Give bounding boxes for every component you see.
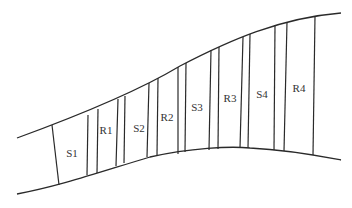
flow-path-diagram: S1R1S2R2S3R3S4R4 — [0, 0, 352, 208]
stage-label-r4: R4 — [293, 82, 306, 94]
stage-label-r2: R2 — [161, 111, 174, 123]
blade-edge-line — [284, 22, 287, 151]
stage-label-s1: S1 — [66, 147, 78, 159]
blade-edge-line — [97, 109, 98, 173]
blade-edge-line — [124, 96, 125, 163]
blade-edge-line — [218, 47, 219, 149]
blade-edge-line — [185, 63, 186, 152]
blade-edge-line — [313, 16, 315, 155]
blade-edge-line — [248, 34, 250, 148]
blade-edge-line — [52, 125, 59, 185]
blade-edge-line — [240, 37, 243, 148]
blade-edge-line — [147, 83, 149, 157]
outer-casing-wall — [17, 13, 341, 138]
stage-label-s4: S4 — [256, 88, 268, 100]
blade-edge-line — [274, 25, 275, 150]
blade-edge-line — [87, 115, 88, 175]
stage-label-s2: S2 — [133, 122, 145, 134]
stage-label-r3: R3 — [224, 92, 237, 104]
diagram-canvas: S1R1S2R2S3R3S4R4 — [0, 0, 352, 208]
blade-edge-line — [116, 99, 118, 166]
blade-edge-line — [157, 78, 158, 155]
stage-label-r1: R1 — [100, 124, 113, 136]
blade-row-lines — [52, 16, 315, 185]
blade-edge-line — [209, 50, 211, 150]
stage-label-s3: S3 — [191, 101, 203, 113]
